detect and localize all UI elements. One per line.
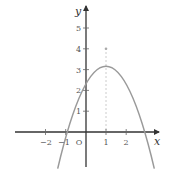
x-tick-label-neg1: −1 — [58, 138, 70, 147]
x-tick-label-1: 1 — [103, 138, 108, 147]
y-axis-label: y — [74, 5, 82, 18]
y-tick-label-1: 1 — [76, 107, 81, 116]
y-tick-label-2: 2 — [76, 86, 81, 95]
y-tick-label-5: 5 — [76, 24, 81, 33]
parabola-graph: −2 −1 O 1 2 1 2 3 4 5 x y — [0, 0, 170, 181]
x-axis-label: x — [154, 135, 161, 148]
vertex-point — [105, 48, 108, 51]
x-tick-label-2: 2 — [123, 138, 128, 147]
y-tick-label-4: 4 — [76, 45, 81, 54]
x-tick-label-neg2: −2 — [40, 138, 52, 147]
origin-label: O — [76, 138, 83, 147]
y-tick-label-3: 3 — [76, 66, 81, 75]
